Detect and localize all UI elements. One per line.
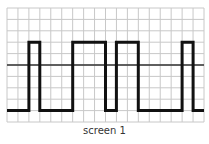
oscilloscope-screen: [0, 0, 209, 124]
screen-caption: screen 1: [0, 125, 209, 137]
